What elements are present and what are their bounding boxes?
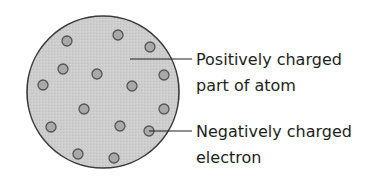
electron-dot: [113, 30, 123, 40]
electron-dot: [58, 64, 68, 74]
atom-model-diagram: Positively charged part of atom Negative…: [0, 0, 384, 185]
electron-dot: [92, 69, 102, 79]
electron-dot: [145, 42, 155, 52]
electron-dot: [159, 104, 169, 114]
electron-dot: [38, 80, 48, 90]
electron-dot: [46, 122, 56, 132]
electron-dot: [159, 70, 169, 80]
electron-dot: [73, 149, 83, 159]
electron-dot: [62, 36, 72, 46]
electron-dot: [115, 121, 125, 131]
positive-label-line2: part of atom: [196, 76, 296, 95]
electron-dot: [127, 81, 137, 91]
electron-dot: [79, 104, 89, 114]
positive-label-line1: Positively charged: [196, 50, 342, 69]
electron-label-line2: electron: [196, 148, 261, 167]
electron-dot: [109, 153, 119, 163]
electron-label-line1: Negatively charged: [196, 122, 352, 141]
positive-sphere: [27, 16, 179, 168]
